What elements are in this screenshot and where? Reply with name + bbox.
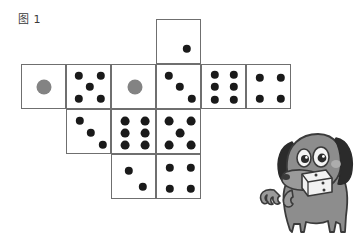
- die-pip: [165, 72, 173, 80]
- die-face-two-bottom: [111, 154, 156, 199]
- die-pip: [141, 141, 150, 150]
- die-face-four-far-right: [246, 64, 291, 109]
- die-pip: [187, 164, 195, 172]
- die-pip: [230, 96, 238, 104]
- die-face-one-gray-middle: [111, 64, 156, 109]
- die-face-five-middle: [156, 109, 201, 154]
- die-pip: [121, 141, 130, 150]
- die-pip: [97, 95, 105, 103]
- die-pip: [165, 117, 174, 126]
- die-pip: [277, 95, 285, 103]
- die-pip: [75, 72, 83, 80]
- die-pip: [86, 83, 94, 91]
- die-pip: [211, 83, 219, 91]
- die-face-three-upper: [156, 64, 201, 109]
- die-pip: [125, 167, 133, 175]
- die-pip: [76, 117, 84, 125]
- dog-pupil-left: [301, 155, 309, 163]
- die-pip: [176, 129, 185, 138]
- die-pip: [128, 80, 143, 95]
- die-pip: [121, 117, 130, 126]
- die-face-three-lower: [66, 109, 111, 154]
- figure-root: 图 1: [0, 0, 362, 244]
- dog-eye-highlight-left: [305, 156, 308, 159]
- die-pip: [97, 72, 105, 80]
- die-pip: [188, 95, 196, 103]
- cartoon-dog-illustration: [252, 128, 362, 244]
- die-pip: [230, 83, 238, 91]
- die-pip: [183, 45, 191, 53]
- die-pip: [187, 117, 196, 126]
- die-face-six-right: [201, 64, 246, 109]
- die-pip: [121, 129, 130, 138]
- die-pip: [256, 74, 264, 82]
- die-pip: [99, 141, 107, 149]
- die-face-one-gray-left: [21, 64, 66, 109]
- die-pip: [165, 141, 174, 150]
- die-pip: [87, 129, 95, 137]
- die-pip: [176, 83, 184, 91]
- die-pip: [75, 95, 83, 103]
- dog-die-pip-1: [315, 174, 318, 177]
- die-pip: [139, 183, 147, 191]
- dog-die-pip-2: [322, 182, 325, 185]
- die-pip: [166, 164, 174, 172]
- die-pip: [166, 185, 174, 193]
- die-pip: [256, 95, 264, 103]
- dog-die-pip-3: [323, 189, 326, 192]
- die-face-five: [66, 64, 111, 109]
- die-pip: [230, 71, 238, 79]
- die-pip: [211, 96, 219, 104]
- die-pip: [141, 129, 150, 138]
- dog-cheek: [331, 160, 341, 168]
- die-face-four-bottom: [156, 154, 201, 199]
- die-pip: [277, 74, 285, 82]
- dog-tail: [261, 190, 280, 205]
- dog-eye-highlight-right: [322, 155, 325, 158]
- dog-nose: [282, 174, 290, 180]
- die-pip: [211, 71, 219, 79]
- die-face-six-middle: [111, 109, 156, 154]
- die-pip: [37, 80, 52, 95]
- die-pip: [187, 141, 196, 150]
- die-face-two-top: [156, 19, 201, 64]
- die-pip: [141, 117, 150, 126]
- dog-pupil-right: [318, 154, 327, 163]
- die-pip: [187, 185, 195, 193]
